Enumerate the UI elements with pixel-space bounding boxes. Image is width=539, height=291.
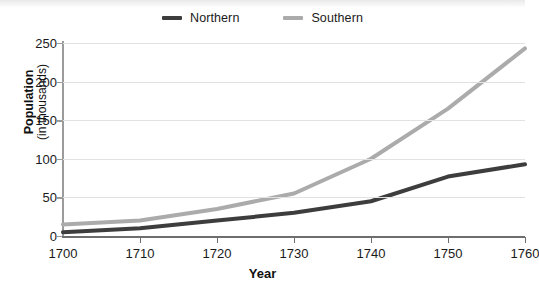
x-axis-tick-mark — [140, 237, 141, 243]
x-axis-tick-label: 1740 — [357, 246, 386, 261]
x-axis-tick-label: 1750 — [434, 246, 463, 261]
gridline — [63, 159, 525, 160]
legend-label: Northern — [190, 11, 239, 25]
x-axis-tick-label: 1720 — [203, 246, 232, 261]
x-axis-tick-mark — [448, 237, 449, 243]
gridline — [63, 82, 525, 83]
x-axis-tick-mark — [371, 237, 372, 243]
y-axis-title-sub: (in thousands) — [36, 64, 49, 140]
x-axis-tick-mark — [217, 237, 218, 243]
x-axis-tick-label: 1760 — [511, 246, 539, 261]
legend-label: Southern — [311, 11, 363, 25]
x-axis-tick-label: 1700 — [49, 246, 78, 261]
legend-entry-southern[interactable]: Southern — [283, 11, 363, 25]
chart-legend: NorthernSouthern — [0, 11, 525, 25]
x-axis-tick-mark — [294, 237, 295, 243]
y-axis-title: Population (in thousands) — [22, 42, 50, 162]
legend-swatch-icon — [162, 16, 182, 20]
plot-area — [63, 43, 525, 236]
gridline — [63, 197, 525, 198]
series-svg — [63, 43, 525, 236]
gridline — [63, 120, 525, 121]
legend-swatch-icon — [283, 16, 303, 20]
x-axis-title: Year — [0, 266, 525, 281]
legend-entry-northern[interactable]: Northern — [162, 11, 239, 25]
x-axis-tick-label: 1710 — [126, 246, 155, 261]
x-axis-tick-mark — [525, 237, 526, 243]
gridline — [63, 43, 525, 44]
y-axis-tick-label: 0 — [50, 229, 57, 244]
x-axis-tick-label: 1730 — [280, 246, 309, 261]
y-axis-tick-label: 50 — [43, 190, 57, 205]
